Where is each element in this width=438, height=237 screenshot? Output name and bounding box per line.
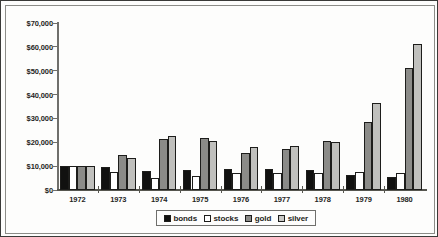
- bar-gold-1975[interactable]: [200, 138, 209, 190]
- bar-bonds-1975[interactable]: [183, 170, 192, 190]
- bar-group: [384, 23, 425, 190]
- x-axis-tick-label-1980: 1980: [384, 195, 425, 204]
- bar-bonds-1979[interactable]: [346, 175, 355, 191]
- bar-gold-1973[interactable]: [118, 155, 127, 190]
- legend-label-bonds: bonds: [174, 214, 198, 223]
- bar-silver-1979[interactable]: [372, 103, 381, 190]
- x-axis-group-separator: [98, 186, 99, 193]
- bar-bonds-1972[interactable]: [60, 166, 69, 190]
- legend-label-stocks: stocks: [214, 214, 239, 223]
- x-axis-group-separator: [302, 186, 303, 193]
- x-axis-group-separator: [180, 186, 181, 193]
- y-axis-tick-label: $60,000: [27, 42, 53, 51]
- bar-gold-1972[interactable]: [77, 166, 86, 190]
- bar-series-container: [57, 23, 425, 190]
- y-axis-tick-label: $30,000: [27, 114, 53, 123]
- bar-group: [180, 23, 221, 190]
- x-axis-group-separator: [139, 186, 140, 193]
- bar-group: [343, 23, 384, 190]
- bar-bonds-1980[interactable]: [387, 177, 396, 190]
- bar-bonds-1976[interactable]: [224, 169, 233, 190]
- bar-stocks-1979[interactable]: [355, 172, 364, 190]
- bar-silver-1980[interactable]: [413, 44, 422, 190]
- bar-group: [261, 23, 302, 190]
- bar-stocks-1977[interactable]: [273, 173, 282, 190]
- bar-gold-1978[interactable]: [323, 141, 332, 190]
- x-axis-tick-label-1977: 1977: [261, 195, 302, 204]
- bar-group: [139, 23, 180, 190]
- bar-stocks-1978[interactable]: [314, 173, 323, 190]
- legend-swatch-silver-icon: [278, 215, 285, 222]
- legend-item-stocks[interactable]: stocks: [204, 214, 238, 223]
- bar-group: [57, 23, 98, 190]
- bar-silver-1977[interactable]: [290, 146, 299, 190]
- bar-bonds-1974[interactable]: [142, 171, 151, 190]
- bar-gold-1974[interactable]: [159, 139, 168, 190]
- plot-area: $0$10,000$20,000$30,000$40,000$50,000$60…: [57, 23, 425, 190]
- chart-figure: $0$10,000$20,000$30,000$40,000$50,000$60…: [0, 0, 438, 237]
- bar-gold-1980[interactable]: [405, 68, 414, 190]
- bar-stocks-1980[interactable]: [396, 173, 405, 190]
- x-axis-group-separator: [221, 186, 222, 193]
- y-axis-tick-label: $10,000: [27, 162, 53, 171]
- bar-silver-1975[interactable]: [209, 141, 218, 190]
- bar-silver-1974[interactable]: [168, 136, 177, 190]
- bar-group: [221, 23, 262, 190]
- bar-stocks-1974[interactable]: [151, 178, 160, 190]
- x-axis-group-separator: [261, 186, 262, 193]
- bar-bonds-1977[interactable]: [265, 169, 274, 190]
- bar-stocks-1973[interactable]: [110, 172, 119, 190]
- bar-gold-1977[interactable]: [282, 149, 291, 190]
- y-axis-tick-label: $70,000: [27, 19, 53, 28]
- bar-gold-1979[interactable]: [364, 122, 373, 190]
- y-axis-tick-label: $20,000: [27, 138, 53, 147]
- bar-silver-1978[interactable]: [331, 142, 340, 190]
- bar-silver-1973[interactable]: [127, 158, 136, 190]
- x-axis-tick-label-1974: 1974: [139, 195, 180, 204]
- x-axis-tick-label-1976: 1976: [221, 195, 262, 204]
- x-axis-tick-label-1978: 1978: [302, 195, 343, 204]
- y-axis-tick-label: $40,000: [27, 90, 53, 99]
- x-axis-group-separator: [343, 186, 344, 193]
- chart-legend: bondsstocksgoldsilver: [156, 210, 316, 226]
- bar-group: [98, 23, 139, 190]
- bar-silver-1972[interactable]: [86, 166, 95, 190]
- bar-stocks-1972[interactable]: [69, 166, 78, 190]
- legend-item-silver[interactable]: silver: [278, 214, 308, 223]
- legend-swatch-stocks-icon: [204, 215, 211, 222]
- legend-item-gold[interactable]: gold: [245, 214, 271, 223]
- bar-silver-1976[interactable]: [250, 147, 259, 190]
- bar-gold-1976[interactable]: [241, 153, 250, 190]
- legend-label-silver: silver: [288, 214, 308, 223]
- x-axis-tick-label-1972: 1972: [57, 195, 98, 204]
- bar-group: [302, 23, 343, 190]
- legend-item-bonds[interactable]: bonds: [164, 214, 197, 223]
- y-axis-tick-label: $50,000: [27, 66, 53, 75]
- x-axis-tick-label-1975: 1975: [180, 195, 221, 204]
- legend-swatch-bonds-icon: [164, 215, 171, 222]
- x-axis-tick-label-1979: 1979: [343, 195, 384, 204]
- bar-bonds-1978[interactable]: [306, 170, 315, 190]
- x-axis-group-separator: [384, 186, 385, 193]
- bar-bonds-1973[interactable]: [101, 167, 110, 190]
- x-axis-tick-label-1973: 1973: [98, 195, 139, 204]
- legend-swatch-gold-icon: [245, 215, 252, 222]
- bar-stocks-1976[interactable]: [232, 173, 241, 190]
- legend-label-gold: gold: [255, 214, 271, 223]
- bar-stocks-1975[interactable]: [192, 176, 201, 190]
